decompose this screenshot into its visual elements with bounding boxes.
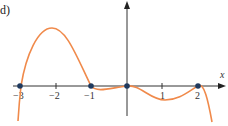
function-curve [18, 28, 212, 122]
y-axis-arrow-icon [124, 1, 130, 9]
tick-label-2: 2 [195, 90, 200, 101]
tick-label-minus2: −2 [49, 90, 60, 101]
tick-label-minus1: −1 [84, 90, 95, 101]
root-point-minus1 [88, 83, 94, 89]
x-axis-arrow-icon [218, 83, 226, 89]
root-point-minus3 [17, 83, 23, 89]
x-axis-label: x [219, 69, 225, 80]
tick-label-minus3: −3 [13, 90, 24, 101]
root-point-2 [195, 83, 201, 89]
root-point-0 [124, 83, 130, 89]
chart: x −3 −2 −1 1 2 [0, 0, 228, 126]
